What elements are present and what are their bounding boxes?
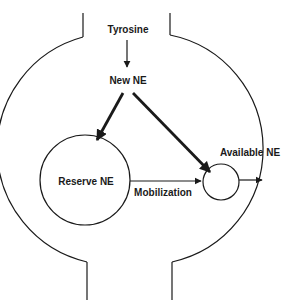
label-tyrosine: Tyrosine bbox=[108, 24, 149, 35]
label-available-ne: Available NE bbox=[220, 147, 281, 158]
label-mobilization: Mobilization bbox=[134, 187, 192, 198]
label-reserve-ne: Reserve NE bbox=[58, 176, 114, 187]
new-ne-to-available-arrow bbox=[133, 93, 210, 172]
diagram-canvas: Tyrosine New NE Reserve NE Mobilization … bbox=[0, 0, 290, 307]
new-ne-to-reserve-arrow bbox=[97, 93, 123, 140]
left-body-arc bbox=[0, 37, 87, 262]
norepinephrine-pool-diagram: Tyrosine New NE Reserve NE Mobilization … bbox=[0, 0, 290, 307]
label-new-ne: New NE bbox=[109, 75, 147, 86]
